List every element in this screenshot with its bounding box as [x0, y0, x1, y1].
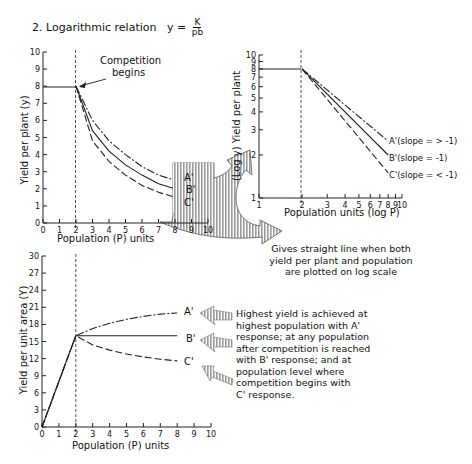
log-note-line: Gives straight line when both: [236, 243, 446, 255]
y-tick-label: 2: [251, 151, 256, 160]
y-tick-label: 3: [34, 406, 39, 415]
series-line: [302, 69, 388, 155]
chart-per-plant-log: 12345678910 12345678910 A'(slope = > -1)…: [231, 50, 457, 218]
series-line: [76, 86, 175, 180]
area-note-line: competition begins with: [236, 377, 466, 389]
x-tick-label: 1: [256, 201, 261, 210]
y-tick-label: 3: [251, 126, 256, 135]
y-tick-label: 6: [34, 389, 39, 398]
area-note-line: response; at any population: [236, 331, 466, 343]
x-tick-label: 8: [175, 430, 180, 439]
log-y-axis-label: (Log y) Yield per plant: [231, 71, 242, 181]
y-tick-label: 6: [251, 83, 256, 92]
area-note-line: with B' response; and at: [236, 354, 466, 366]
area-note-line: after competition is reached: [236, 343, 466, 355]
area-x-axis-label: Population (P) units: [72, 440, 169, 451]
y-tick-label: 10: [246, 51, 256, 60]
x-tick-label: 7: [158, 430, 163, 439]
x-tick-label: 1: [56, 430, 61, 439]
chart-per-area: 036912151821242730 012345678910 A' B' C'…: [18, 252, 216, 451]
log-note-line: yield per plant and population: [236, 255, 446, 267]
x-axis-label: Population (P) units: [57, 233, 154, 244]
series-label: C': [184, 356, 194, 367]
y-tick-label: 21: [29, 303, 39, 312]
area-note-line: highest population with A': [236, 320, 466, 332]
x-tick-label: 9: [189, 226, 194, 235]
log-note-line: are plotted on log scale: [236, 266, 446, 278]
series-label: A': [184, 172, 194, 183]
series-label: B': [186, 184, 196, 195]
y-tick-label: 10: [30, 48, 40, 57]
y-tick-label: 6: [35, 116, 40, 125]
y-axis-label: Yield per plant (y): [19, 95, 30, 185]
series-line: [302, 69, 388, 141]
series-label: B': [186, 333, 196, 344]
y-tick-label: 1: [251, 194, 256, 203]
y-tick-label: 7: [251, 73, 256, 82]
series-line: [76, 86, 175, 189]
y-tick-label: 1: [35, 202, 40, 211]
area-note: Highest yield is achieved at highest pop…: [236, 308, 466, 400]
x-tick-label: 7: [156, 226, 161, 235]
y-tick-label: 4: [251, 108, 256, 117]
y-tick-label: 4: [35, 151, 40, 160]
x-tick-label: 9: [192, 430, 197, 439]
area-note-line: population level where: [236, 366, 466, 378]
y-tick-label: 18: [29, 320, 39, 329]
x-tick-label: 3: [90, 430, 95, 439]
y-tick-label: 7: [35, 99, 40, 108]
y-tick-label: 8: [35, 82, 40, 91]
x-tick-label: 10: [206, 430, 216, 439]
series-line: [42, 336, 177, 427]
y-tick-label: 12: [29, 355, 39, 364]
hatched-pointer-arrows: [200, 306, 233, 385]
series-label: C': [184, 197, 194, 208]
series-line: [42, 336, 177, 427]
series-line: [42, 313, 177, 427]
y-tick-label: 27: [29, 269, 39, 278]
series-line: [76, 86, 175, 197]
x-tick-label: 5: [124, 430, 129, 439]
y-tick-label: 0: [34, 423, 39, 432]
y-tick-label: 15: [29, 338, 39, 347]
y-tick-label: 5: [251, 94, 256, 103]
x-tick-label: 6: [141, 430, 146, 439]
log-x-axis-label: Population units (log P): [284, 207, 400, 218]
y-tick-label: 3: [35, 168, 40, 177]
series-line: [302, 69, 388, 173]
y-tick-label: 5: [35, 134, 40, 143]
x-tick-label: 0: [40, 226, 45, 235]
y-tick-label: 9: [35, 65, 40, 74]
y-tick-label: 9: [34, 372, 39, 381]
area-y-axis-label: Yield per unit area (Y): [18, 286, 29, 396]
y-tick-label: 30: [29, 252, 39, 261]
x-tick-label: 8: [172, 226, 177, 235]
log-note: Gives straight line when both yield per …: [236, 243, 446, 278]
series-label: A'(slope = > -1): [389, 136, 457, 146]
y-tick-label: 0: [35, 219, 40, 228]
competition-label-line2: begins: [112, 67, 145, 78]
y-tick-label: 2: [35, 185, 40, 194]
series-label: B'(slope = -1): [389, 153, 447, 163]
area-note-line: C' response.: [236, 389, 466, 401]
x-tick-label: 4: [107, 430, 112, 439]
series-label: C'(slope = < -1): [389, 170, 457, 180]
series-label: A': [184, 306, 194, 317]
x-tick-label: 10: [203, 226, 213, 235]
competition-label-line1: Competition: [100, 55, 161, 66]
x-tick-label: 0: [39, 430, 44, 439]
area-note-line: Highest yield is achieved at: [236, 308, 466, 320]
y-tick-label: 24: [29, 286, 39, 295]
